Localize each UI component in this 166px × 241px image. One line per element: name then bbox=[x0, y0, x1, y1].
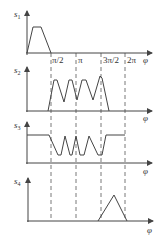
phi-axis-label: φ bbox=[143, 166, 148, 176]
tick-2pi: 2π bbox=[127, 55, 137, 65]
signal-s3: s3 φ bbox=[14, 120, 152, 176]
tick-3pi-half: 3π/2 bbox=[103, 55, 119, 65]
s3-label: s3 bbox=[14, 120, 21, 131]
tick-pi: π bbox=[78, 55, 83, 65]
timing-diagram: s1 π/2 π 3π/2 2π φ s2 φ s3 φ s4 φ bbox=[0, 0, 166, 241]
signal-s4: s4 φ bbox=[14, 176, 153, 235]
s4-label: s4 bbox=[14, 176, 21, 187]
phi-axis-label: φ bbox=[143, 55, 148, 65]
signal-s1: s1 π/2 π 3π/2 2π φ bbox=[14, 9, 152, 65]
phi-axis-label: φ bbox=[147, 225, 152, 235]
tick-pi-half: π/2 bbox=[52, 55, 64, 65]
phi-axis-label: φ bbox=[143, 113, 148, 123]
signal-s2: s2 φ bbox=[14, 65, 152, 123]
s1-label: s1 bbox=[14, 9, 21, 20]
s2-label: s2 bbox=[14, 65, 21, 76]
